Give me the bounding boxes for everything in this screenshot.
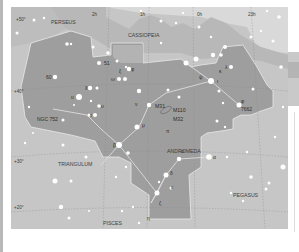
- star-label-pi: π: [166, 128, 170, 134]
- label-triangulum: TRIANGULUM: [58, 161, 92, 167]
- dec-label-50: +50°: [16, 17, 26, 22]
- label-m31: M31: [155, 103, 165, 109]
- star-chart[interactable]: PERSEUS CASSIOPEIA ANDROMEDA TRIANGULUM …: [11, 7, 288, 229]
- star-label-eta: η: [147, 215, 150, 221]
- star-label-upsilon-2: υ: [101, 103, 104, 109]
- dec-label-40: +40°: [14, 89, 24, 94]
- star-label-delta: δ: [170, 170, 173, 176]
- star-label-omega: ω: [111, 76, 115, 82]
- star-label-iota: ι: [217, 78, 218, 84]
- star-label-mu: μ: [142, 122, 145, 128]
- label-ngc7662: 7662: [241, 106, 252, 112]
- ra-label-2h: 2h: [92, 12, 98, 17]
- star-label-60: 60: [46, 74, 52, 80]
- dec-label-30: +30°: [14, 159, 24, 164]
- label-ngc752: NGC 752: [37, 116, 58, 122]
- ra-label-1h: 1h: [140, 12, 146, 17]
- star-label-51: 51: [104, 60, 110, 66]
- label-cassiopeia: CASSIOPEIA: [128, 32, 160, 38]
- star-label-psi: ψ: [199, 74, 203, 80]
- left-edge: [0, 0, 3, 252]
- label-perseus: PERSEUS: [51, 19, 76, 25]
- label-m110: M110: [173, 107, 186, 113]
- star-label-chi: χ: [85, 84, 88, 90]
- ra-label-0h: 0h: [197, 12, 203, 17]
- label-m32: M32: [173, 116, 183, 122]
- star-label-beta: β: [113, 142, 116, 148]
- ra-label-23h: 23h: [248, 12, 256, 17]
- label-andromeda: ANDROMEDA: [167, 148, 201, 154]
- star-label-tau: τ: [90, 112, 92, 118]
- star-label-alpha: α: [213, 154, 216, 160]
- label-pisces: PISCES: [103, 220, 123, 226]
- dec-label-20: +20°: [14, 205, 24, 210]
- label-pegasus: PEGASUS: [233, 192, 259, 198]
- star-label-upsilon: υ: [71, 94, 74, 100]
- star-chart-svg: PERSEUS CASSIOPEIA ANDROMEDA TRIANGULUM …: [11, 7, 288, 229]
- side-divider: [294, 112, 295, 232]
